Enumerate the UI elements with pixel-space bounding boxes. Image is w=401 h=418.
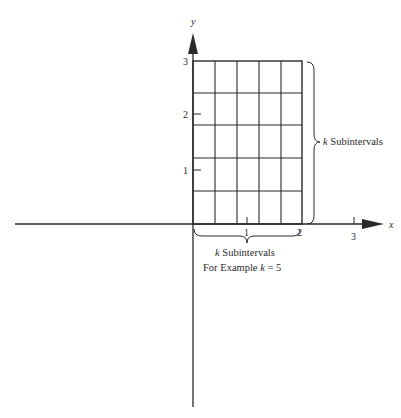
y-axis-label: y (190, 16, 196, 27)
k-symbol: k (215, 247, 220, 258)
coordinate-diagram: 1 2 3 1 2 3 x y (0, 0, 401, 418)
y-axis-arrow-icon (188, 33, 198, 54)
k-symbol: k (260, 262, 265, 273)
y-tick-label-3: 3 (183, 56, 188, 67)
x-tick-label-2: 2 (297, 227, 302, 238)
right-annotation-text: Subintervals (330, 136, 383, 147)
x-axis-arrow-icon (362, 219, 384, 229)
right-brace-icon (307, 62, 320, 224)
bottom-brace-annotation-line1: k Subintervals (215, 248, 275, 259)
x-tick-label-1: 1 (244, 227, 249, 238)
diagram-canvas: 1 2 3 1 2 3 x y k Subintervals k Subinte… (0, 0, 401, 418)
k-symbol: k (323, 136, 328, 147)
axis-ticks (193, 114, 354, 224)
x-tick-label-3: 3 (351, 231, 356, 242)
bottom-annotation-text: Subintervals (222, 247, 275, 258)
example-value: = 5 (267, 262, 281, 273)
bottom-brace-annotation-line2: For Example k = 5 (203, 263, 281, 274)
right-brace-annotation: k Subintervals (323, 137, 383, 148)
partition-grid (193, 61, 302, 224)
y-tick-label-2: 2 (183, 109, 188, 120)
y-tick-label-1: 1 (183, 165, 188, 176)
example-text: For Example (203, 262, 258, 273)
x-axis-label: x (388, 219, 394, 230)
